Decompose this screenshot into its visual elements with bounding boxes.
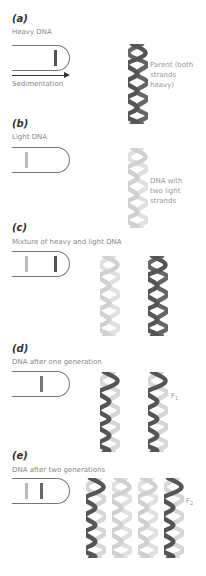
light-band — [25, 483, 28, 499]
light-helix — [128, 148, 148, 228]
note-line: two light — [150, 186, 183, 196]
panel-e-caption: DNA after two generations — [12, 466, 105, 474]
sedimentation-arrow-head-icon — [64, 72, 70, 78]
sedimentation-arrow-shaft — [12, 75, 68, 76]
panel-a-caption: Heavy DNA — [12, 28, 52, 36]
centrifuge-tube-d — [12, 371, 70, 397]
light-band — [25, 152, 28, 168]
light-helix — [100, 256, 120, 336]
panel-b-label: (b) — [12, 118, 28, 129]
light-helix — [138, 478, 158, 558]
centrifuge-tube-a — [12, 45, 70, 71]
note-line: strands — [150, 196, 183, 206]
panel-d-caption: DNA after one generation — [12, 358, 102, 366]
note-line: heavy) — [150, 80, 193, 90]
note-line: Parent (both — [150, 60, 193, 70]
panel-c-label: (c) — [12, 222, 27, 233]
hybrid-helix — [100, 372, 120, 452]
note-line: strands — [150, 70, 193, 80]
hybrid-band — [40, 483, 43, 499]
centrifuge-tube-b — [12, 147, 70, 173]
panel-a-label: (a) — [12, 13, 28, 24]
centrifuge-tube-c — [12, 251, 70, 277]
panel-c-caption: Mixture of heavy and light DNA — [12, 238, 122, 246]
generation-number: 2 — [190, 500, 193, 506]
f1-label: F1 — [171, 392, 178, 401]
generation-number: 1 — [175, 395, 178, 401]
panel-e-label: (e) — [12, 450, 28, 461]
light-band — [25, 256, 28, 272]
note-line: DNA with — [150, 176, 183, 186]
sedimentation-label: Sedimentation — [12, 80, 63, 88]
light-note: DNA with two light strands — [150, 176, 183, 206]
light-helix — [112, 478, 132, 558]
centrifuge-tube-e — [12, 478, 70, 504]
hybrid-helix — [148, 372, 168, 452]
f2-label: F2 — [186, 497, 193, 506]
hybrid-helix — [86, 478, 106, 558]
heavy-parent-helix — [128, 44, 148, 124]
heavy-helix — [148, 256, 168, 336]
hybrid-helix — [164, 478, 184, 558]
parent-note: Parent (both strands heavy) — [150, 60, 193, 90]
heavy-band — [54, 256, 57, 272]
heavy-band — [54, 50, 57, 66]
panel-d-label: (d) — [12, 343, 28, 354]
panel-b-caption: Light DNA — [12, 133, 47, 141]
hybrid-band — [40, 376, 43, 392]
